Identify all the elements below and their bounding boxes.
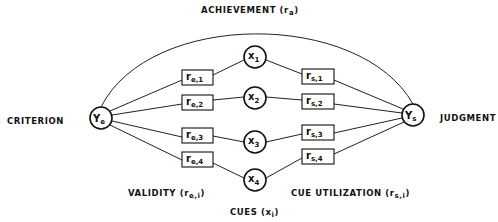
- validity-label: VALIDITY (re,i): [128, 188, 205, 200]
- cue-node-1: x1: [244, 46, 266, 68]
- validity-box-4: re,4: [182, 152, 213, 167]
- edge-re4-x4: [213, 163, 244, 178]
- criterion-node: Ye: [90, 107, 112, 129]
- utilization-box-4: rs,4: [302, 149, 334, 164]
- edge-rs2-ys: [334, 104, 402, 113]
- cue-node-3: x3: [244, 131, 266, 153]
- edge-rs3-ys: [334, 118, 402, 133]
- utilization-box-2: rs,2: [302, 94, 334, 109]
- cue-node-2: x2: [244, 87, 266, 109]
- utilization-box-3: rs,3: [302, 125, 334, 140]
- edge-rs1-ys: [334, 80, 403, 109]
- achievement-label: ACHIEVEMENT (ra): [201, 5, 299, 17]
- validity-box-3: re,3: [182, 128, 213, 143]
- validity-box-2: re,2: [182, 95, 213, 110]
- cues-label: CUES (xi): [230, 207, 279, 219]
- edge-x1-rs1: [266, 60, 302, 74]
- judgment-label: JUDGMENT: [439, 113, 496, 123]
- edge-ye-re4: [110, 125, 182, 160]
- validity-box-1: re,1: [182, 70, 213, 85]
- edge-x3-rs3: [266, 134, 302, 142]
- edge-re2-x2: [213, 97, 244, 100]
- edge-x4-rs4: [266, 158, 302, 178]
- edge-re1-x1: [213, 60, 244, 75]
- edge-ye-re1: [110, 80, 182, 111]
- edge-ye-re3: [112, 121, 182, 137]
- cue-node-4: x4: [244, 169, 266, 191]
- cue-utilization-label: CUE UTILIZATION (rs,i): [291, 188, 410, 200]
- criterion-label: CRITERION: [7, 116, 64, 126]
- edge-rs4-ys: [334, 122, 404, 154]
- utilization-box-1: rs,1: [302, 69, 334, 84]
- edge-re3-x3: [213, 136, 244, 142]
- judgment-node: Ys: [402, 104, 424, 126]
- lens-model-diagram: Ye Ys x1 x2 x3 x4 re,1 re,2 re,3 re,4: [0, 0, 498, 222]
- edge-x2-rs2: [266, 97, 302, 100]
